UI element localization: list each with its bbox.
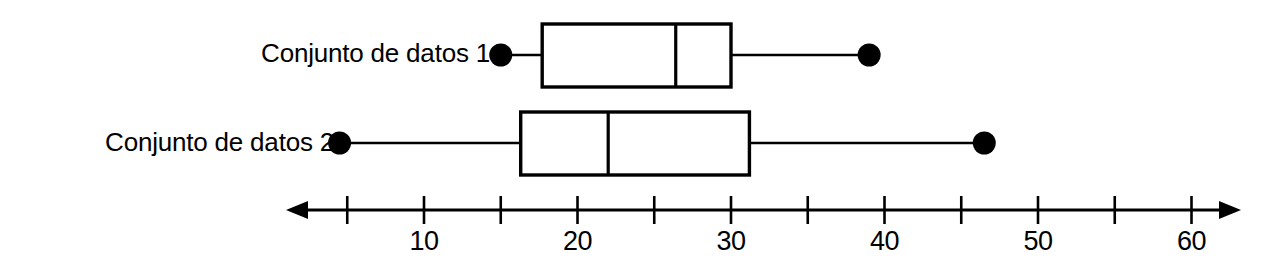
axis-tick-label-10: 10 <box>409 226 438 257</box>
box-rect-dataset-2 <box>521 112 750 175</box>
axis-tick-label-50: 50 <box>1023 226 1052 257</box>
axis-tick-label-30: 30 <box>716 226 745 257</box>
number-line-axis <box>286 196 1241 224</box>
max-marker-dot-dataset-1 <box>858 44 881 67</box>
max-marker-dot-dataset-2 <box>973 132 996 155</box>
min-marker-dot-dataset-1 <box>489 44 512 67</box>
axis-tick-label-40: 40 <box>870 226 899 257</box>
axis-arrow-right-icon <box>1219 201 1241 219</box>
axis-tick-label-20: 20 <box>563 226 592 257</box>
min-marker-dot-dataset-2 <box>328 132 351 155</box>
boxplot-canvas <box>0 0 1285 279</box>
axis-tick-label-60: 60 <box>1177 226 1206 257</box>
box-rect-dataset-1 <box>542 24 731 87</box>
axis-arrow-left-icon <box>286 201 308 219</box>
boxplot-series-dataset-2 <box>328 112 996 175</box>
boxplot-series-dataset-1 <box>489 24 880 87</box>
boxplot-figure: Conjunto de datos 1 Conjunto de datos 2 … <box>0 0 1285 279</box>
